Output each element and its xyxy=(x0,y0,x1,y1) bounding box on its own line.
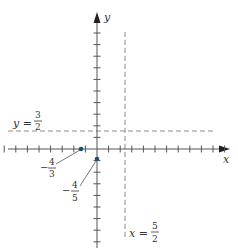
x-intercept-leader xyxy=(56,150,80,164)
y-intercept-label: − 4 5 xyxy=(62,180,79,203)
coordinate-plane-diagram: y x y = 3 2 x = 5 2 − 4 3 − 4 5 xyxy=(0,0,238,252)
x-intercept-label: − 4 3 xyxy=(40,157,56,179)
horizontal-asymptote-label: y = 3 2 xyxy=(12,110,42,132)
y-axis-arrow-icon xyxy=(94,12,101,23)
y-intercept-point xyxy=(95,157,100,162)
svg-text:3: 3 xyxy=(35,110,41,120)
y-intercept-leader xyxy=(80,161,96,186)
x-axis xyxy=(4,146,230,153)
svg-text:−: − xyxy=(62,185,70,196)
svg-text:2: 2 xyxy=(152,234,158,244)
svg-text:x =: x = xyxy=(129,227,148,240)
svg-text:2: 2 xyxy=(35,122,41,132)
x-intercept-point xyxy=(79,147,84,152)
y-axis-label: y xyxy=(103,11,111,24)
svg-text:4: 4 xyxy=(49,157,55,167)
svg-text:4: 4 xyxy=(72,180,78,190)
svg-text:3: 3 xyxy=(49,169,55,179)
svg-text:y =: y = xyxy=(12,117,32,130)
svg-text:5: 5 xyxy=(72,193,78,203)
y-axis xyxy=(94,12,101,248)
vertical-asymptote-label: x = 5 2 xyxy=(129,221,159,244)
svg-text:5: 5 xyxy=(152,221,158,231)
svg-text:−: − xyxy=(40,162,48,173)
x-axis-label: x xyxy=(223,153,230,166)
